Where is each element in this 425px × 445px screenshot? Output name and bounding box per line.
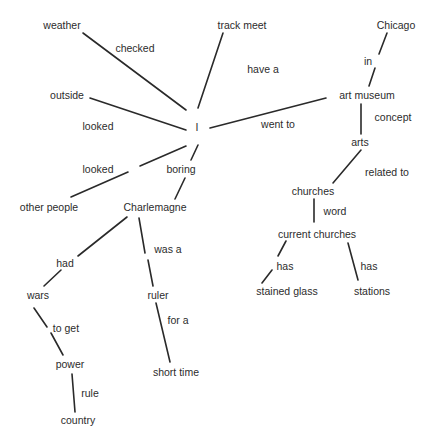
edge-label-related-to: related to — [365, 167, 409, 178]
edge-line — [333, 150, 361, 183]
node-stations: stations — [354, 286, 390, 297]
edge-label-has-stations: has — [361, 261, 378, 272]
node-arts: arts — [351, 137, 369, 148]
edge-line — [34, 308, 47, 327]
node-wars: wars — [27, 290, 49, 301]
edge-label-checked: checked — [115, 43, 154, 54]
edge-label-had: had — [56, 258, 74, 269]
edge-line — [278, 241, 286, 256]
node-churches: churches — [292, 186, 335, 197]
edge-line — [148, 260, 153, 286]
edge-line — [198, 33, 223, 108]
edge-label-to-get: to get — [53, 323, 79, 334]
node-weather: weather — [43, 20, 80, 31]
edge-label-for-a: for a — [167, 315, 188, 326]
node-chicago: Chicago — [377, 20, 416, 31]
node-short-time: short time — [153, 367, 199, 378]
edge-line — [72, 374, 75, 412]
node-i: I — [196, 122, 199, 133]
edge-line — [175, 178, 185, 199]
node-stained-glass: stained glass — [256, 286, 317, 297]
edge-label-looked-people: looked — [83, 164, 114, 175]
edge-line — [348, 243, 358, 280]
concept-map-canvas: weather track meet Chicago outside I art… — [0, 0, 425, 445]
edge-label-word: word — [324, 206, 347, 217]
edge-line — [139, 218, 145, 253]
edge-label-have-a: have a — [247, 64, 279, 75]
edge-label-concept: concept — [375, 112, 412, 123]
edge-label-rule: rule — [81, 388, 99, 399]
edge-line — [379, 33, 387, 54]
edge-label-in: in — [364, 56, 372, 67]
node-power: power — [56, 359, 85, 370]
edge-line — [78, 217, 127, 256]
edge-label-went-to: went to — [261, 119, 295, 130]
edge-label-looked-outside: looked — [83, 121, 114, 132]
edge-line — [191, 145, 198, 160]
node-art-museum: art museum — [339, 90, 394, 101]
edge-line — [44, 270, 61, 286]
edge-label-has-stained: has — [277, 261, 294, 272]
node-current-churches: current churches — [278, 229, 356, 240]
node-other-people: other people — [20, 202, 78, 213]
edge-label-boring: boring — [166, 164, 195, 175]
edge-line — [156, 303, 170, 362]
edge-label-was-a: was a — [154, 244, 181, 255]
edge-line — [71, 172, 128, 197]
node-ruler: ruler — [147, 290, 168, 301]
node-country: country — [61, 415, 95, 426]
edge-layer — [0, 0, 425, 445]
node-outside: outside — [50, 90, 84, 101]
edge-line — [51, 333, 63, 355]
node-track-meet: track meet — [217, 20, 266, 31]
edge-line — [369, 68, 375, 86]
edge-line — [262, 270, 272, 283]
node-charlemagne: Charlemagne — [123, 202, 186, 213]
